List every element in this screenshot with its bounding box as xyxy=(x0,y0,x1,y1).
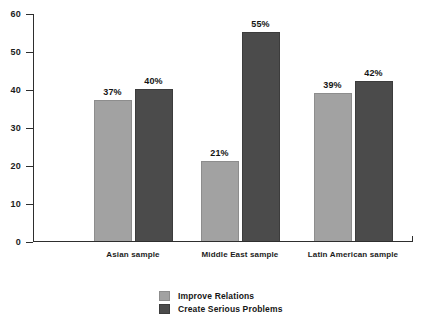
x-axis-end-tick xyxy=(412,236,413,242)
category-label: Latin American sample xyxy=(308,250,398,259)
bar-value-label: 42% xyxy=(364,68,383,78)
y-axis-tick: 60 xyxy=(26,14,33,15)
bar: 42% xyxy=(355,81,393,241)
y-axis-tick-label: 10 xyxy=(11,199,21,209)
y-axis-tick: 0 xyxy=(26,242,33,243)
bar-value-label: 37% xyxy=(103,87,122,97)
bar-value-label: 21% xyxy=(210,148,229,158)
y-axis-tick-label: 50 xyxy=(11,47,21,57)
bar-value-label: 40% xyxy=(144,76,163,86)
y-axis-tick: 50 xyxy=(26,52,33,53)
y-axis-tick: 20 xyxy=(26,166,33,167)
y-axis-tick-label: 0 xyxy=(16,237,21,247)
y-axis-tick-label: 60 xyxy=(11,9,21,19)
category-label: Middle East sample xyxy=(202,250,279,259)
legend-swatch-icon xyxy=(159,291,170,301)
bar: 21% xyxy=(201,161,239,241)
plot-area: 0102030405060 37%40%21%55%39%42% xyxy=(33,14,413,242)
legend-item-improve-relations: Improve Relations xyxy=(159,291,277,301)
bar-chart: 0102030405060 37%40%21%55%39%42% Asian s… xyxy=(0,0,436,322)
y-axis-line xyxy=(33,14,34,242)
legend-item-label: Create Serious Problems xyxy=(178,304,283,314)
bar: 55% xyxy=(242,32,280,241)
legend-item-create-serious-problems: Create Serious Problems xyxy=(159,304,277,314)
chart-legend: Improve Relations Create Serious Problem… xyxy=(0,291,436,314)
y-axis-tick: 10 xyxy=(26,204,33,205)
y-axis-tick-label: 40 xyxy=(11,85,21,95)
legend-swatch-icon xyxy=(159,304,170,314)
bar-value-label: 55% xyxy=(251,19,270,29)
y-axis-tick: 30 xyxy=(26,128,33,129)
bar: 40% xyxy=(135,89,173,241)
y-axis-tick: 40 xyxy=(26,90,33,91)
bar: 37% xyxy=(94,100,132,241)
x-axis-line xyxy=(33,241,413,242)
bar: 39% xyxy=(314,93,352,241)
y-axis-tick-label: 30 xyxy=(11,123,21,133)
y-axis-tick-label: 20 xyxy=(11,161,21,171)
bar-value-label: 39% xyxy=(323,80,342,90)
category-label: Asian sample xyxy=(106,250,159,259)
legend-item-label: Improve Relations xyxy=(178,291,254,301)
